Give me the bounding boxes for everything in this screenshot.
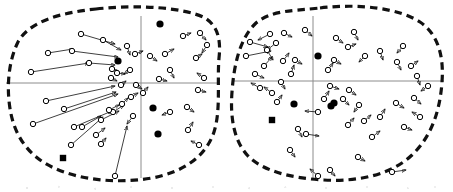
filled-circle-marker [149, 104, 156, 111]
velocity-vector-arrow [285, 53, 289, 59]
vector-marker [78, 31, 115, 44]
velocity-vector-arrow [258, 35, 268, 40]
vector-marker [180, 33, 191, 39]
vector-marker [156, 76, 167, 81]
open-circle-marker [167, 109, 172, 114]
velocity-vector-arrow [128, 49, 130, 55]
vector-marker [114, 70, 125, 75]
vector-marker [394, 59, 401, 70]
vector-marker [162, 109, 173, 115]
filled-square-marker [269, 117, 275, 123]
figure-canvas [0, 0, 453, 192]
open-circle-marker [28, 69, 33, 74]
vector-marker [28, 63, 89, 75]
vector-marker [93, 128, 105, 138]
open-circle-marker [30, 121, 35, 126]
velocity-vector-arrow [167, 49, 174, 53]
velocity-vector-arrow [264, 87, 270, 91]
velocity-vector-arrow [282, 84, 285, 89]
vector-marker [333, 35, 343, 43]
velocity-vector-arrow [398, 104, 404, 108]
open-circle-marker [133, 82, 138, 87]
velocity-vector-arrow [75, 51, 118, 57]
velocity-vector-arrow [299, 131, 302, 137]
vector-marker [251, 83, 263, 91]
velocity-vector-arrow [111, 105, 119, 109]
filled-circle-marker [114, 57, 121, 64]
vector-marker [327, 167, 335, 176]
open-circle-marker [130, 113, 135, 118]
open-circle-marker [303, 131, 308, 136]
velocity-vector-arrow [338, 40, 343, 43]
velocity-vector-arrow [332, 172, 335, 176]
open-circle-marker [197, 30, 202, 35]
open-circle-marker [315, 109, 320, 114]
vector-marker [421, 83, 431, 91]
velocity-vector-arrow [309, 134, 319, 136]
vector-marker [184, 104, 194, 112]
open-circle-marker [333, 35, 338, 40]
filled-circle-marker [290, 100, 297, 107]
vector-marker [128, 93, 138, 100]
vector-marker [69, 48, 118, 57]
vector-marker [397, 43, 406, 53]
open-circle-marker [295, 126, 300, 131]
open-circle-marker [377, 114, 382, 119]
open-circle-marker [132, 51, 137, 56]
open-circle-marker [292, 57, 297, 62]
vector-marker [414, 73, 420, 85]
open-circle-marker [369, 134, 374, 139]
velocity-vector-arrow [253, 43, 268, 47]
open-circle-marker [281, 30, 286, 35]
vector-marker [147, 53, 157, 61]
open-circle-marker [340, 96, 345, 101]
open-circle-marker [278, 79, 283, 84]
vector-marker [127, 113, 136, 124]
open-circle-marker [86, 60, 91, 65]
filled-circle-marker [327, 102, 334, 109]
vector-marker [167, 67, 174, 78]
vector-marker [369, 131, 380, 140]
open-circle-marker [247, 39, 252, 44]
vector-marker [124, 43, 130, 55]
vector-marker [345, 118, 354, 128]
velocity-vector-arrow [124, 71, 128, 74]
open-circle-marker [400, 43, 405, 48]
vector-marker [118, 81, 126, 88]
vector-marker [197, 30, 206, 40]
velocity-vector-arrow [257, 75, 264, 78]
open-circle-marker [327, 83, 332, 88]
right-panel [232, 6, 444, 180]
vector-marker [351, 29, 358, 40]
vector-marker [393, 100, 404, 108]
open-circle-marker [147, 53, 152, 58]
velocity-vector-arrow [202, 47, 206, 53]
vector-marker [100, 37, 121, 50]
velocity-vector-arrow [92, 63, 115, 65]
velocity-vector-arrow [366, 115, 371, 119]
velocity-vector-arrow [197, 73, 202, 76]
open-circle-marker [252, 71, 257, 76]
vector-marker [377, 48, 383, 60]
open-circle-marker [79, 124, 84, 129]
vector-marker [401, 124, 412, 130]
open-circle-marker [274, 99, 279, 104]
velocity-vector-arrow [105, 41, 121, 50]
vector-marker [325, 63, 333, 73]
velocity-vector-arrow [381, 54, 383, 60]
open-circle-marker [414, 73, 419, 78]
velocity-vector-arrow [397, 48, 401, 53]
vector-marker [361, 115, 371, 124]
vector-marker [264, 87, 275, 96]
filled-circle-marker [156, 20, 163, 27]
open-circle-marker [114, 70, 119, 75]
open-circle-marker [425, 83, 430, 88]
open-circle-marker [204, 42, 209, 47]
velocity-vector-arrow [330, 63, 333, 68]
open-circle-marker [345, 44, 350, 49]
velocity-vector-arrow [152, 58, 157, 61]
velocity-vector-arrow [333, 87, 339, 89]
vector-marker [112, 126, 127, 179]
open-circle-marker [71, 124, 76, 129]
vector-marker [411, 95, 421, 104]
